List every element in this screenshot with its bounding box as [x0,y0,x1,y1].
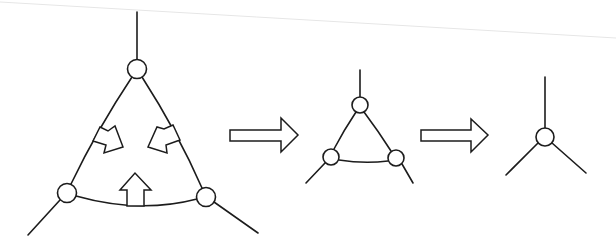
transition-arrow-1-icon [230,118,298,152]
edge-bottom [339,160,388,162]
reduction-diagram [0,0,616,248]
node-center [536,128,554,146]
contraction-arrow-left-icon [93,126,123,153]
contraction-arrow-right-icon [148,125,180,153]
scan-edge-line [0,2,616,38]
node-bottom-left [58,184,77,203]
edge-right [364,112,391,151]
leg-bottom-left [28,200,60,235]
medium-triangle [306,70,413,183]
large-triangle [28,12,258,235]
node-top [352,97,368,113]
leg-bottom-right [402,164,413,183]
contraction-arrow-up-icon [120,173,151,206]
node-bottom-right [197,188,216,207]
single-vertex [506,77,586,175]
leg-bottom-right [552,143,586,173]
leg-bottom-left [506,143,538,175]
leg-bottom-right [214,202,258,233]
node-bottom-left [323,149,339,165]
leg-bottom-left [306,163,325,183]
node-bottom-right [388,150,404,166]
node-top [128,60,147,79]
edge-left [334,112,356,149]
transition-arrow-2-icon [421,119,488,152]
